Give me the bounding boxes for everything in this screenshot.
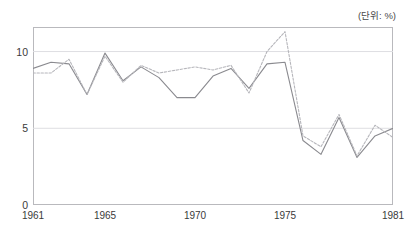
x-tick-1981: 1981 <box>373 210 409 222</box>
series-layer <box>33 32 393 158</box>
line-series-dotted <box>33 32 393 156</box>
line-series-solid <box>33 53 393 157</box>
chart-container: (단위: %) 0510 19611965197019751981 <box>0 0 409 239</box>
x-tick-1965: 1965 <box>85 210 125 222</box>
plot-canvas <box>33 27 393 205</box>
y-tick-10: 10 <box>8 46 28 58</box>
y-tick-5: 5 <box>8 122 28 134</box>
plot-area <box>33 27 393 205</box>
unit-label: (단위: %) <box>358 10 396 22</box>
chart-title <box>60 0 350 13</box>
gridlines <box>33 52 393 129</box>
x-tick-1975: 1975 <box>265 210 305 222</box>
x-tick-1961: 1961 <box>13 210 53 222</box>
x-tick-1970: 1970 <box>175 210 215 222</box>
